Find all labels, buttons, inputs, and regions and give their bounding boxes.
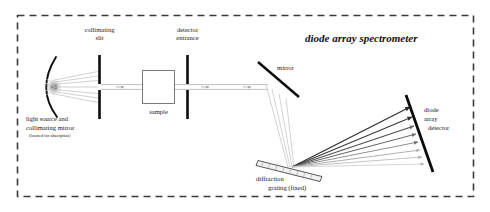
- diode-array-detector-label-line2: array: [424, 115, 438, 122]
- light-source-label-line1: light source and: [26, 115, 69, 122]
- mirror-to-grating-rays: [266, 85, 294, 168]
- collimating-slit-label-line2: slit: [95, 34, 103, 41]
- detector-entrance-slit: [186, 55, 189, 119]
- mirror-label: mirror: [277, 64, 295, 71]
- diode-array-detector-label-line1: diode: [424, 106, 439, 113]
- diffraction-grating-label-line2: grating (fixed): [268, 184, 306, 192]
- dispersed-ray-1: [292, 107, 410, 167]
- detector-entrance-label-line1: detector: [177, 26, 199, 33]
- sample-cell: [143, 71, 175, 104]
- collimating-slit: [98, 55, 101, 119]
- diffraction-grating-label-line1: diffraction: [256, 175, 284, 182]
- light-source-label-line2: collimating mirror: [26, 124, 75, 131]
- light-source-note: (located for absorption): [29, 133, 71, 138]
- collimated-beam-bundle: [52, 72, 98, 103]
- detector-entrance-label-line2: entrance: [176, 34, 198, 41]
- main-beam: [101, 85, 268, 90]
- sample-label: sample: [149, 108, 168, 115]
- diagram-title: diode array spectrometer: [305, 32, 418, 44]
- dispersed-ray-fan: [292, 107, 424, 167]
- spectrometer-diagram: diode array spectrometer collim: [0, 0, 490, 212]
- diode-array-detector-label-line3: detector: [428, 124, 450, 131]
- collimating-slit-label-line1: collimating: [84, 26, 115, 33]
